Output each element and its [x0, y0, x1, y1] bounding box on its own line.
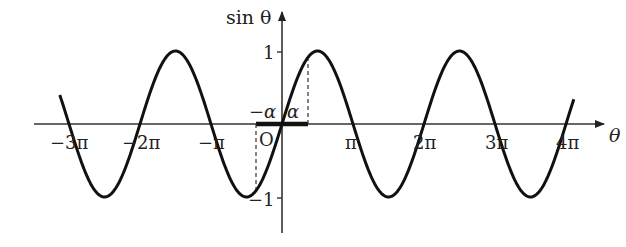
x-tick-label-4pi: 4π: [556, 132, 579, 153]
y-tick-label-neg1: −1: [248, 189, 275, 210]
x-axis-label: θ: [609, 124, 621, 146]
origin-label: O: [259, 129, 274, 150]
x-tick-label-m3pi: −3π: [50, 132, 89, 153]
alpha-label: α: [287, 101, 299, 122]
x-tick-label-mpi: −π: [198, 132, 225, 153]
x-tick-label-m2pi: −2π: [122, 132, 161, 153]
y-axis-label: sin θ: [226, 6, 272, 28]
sine-graph: sin θ θ 1 −1 O −α α −3π −2π −π π 2π 3π 4…: [0, 0, 626, 247]
x-tick-label-3pi: 3π: [485, 132, 508, 153]
x-tick-label-pi: π: [345, 132, 357, 153]
x-tick-label-2pi: 2π: [413, 132, 436, 153]
neg-alpha-label: −α: [249, 101, 276, 122]
y-tick-label-1: 1: [263, 42, 274, 63]
